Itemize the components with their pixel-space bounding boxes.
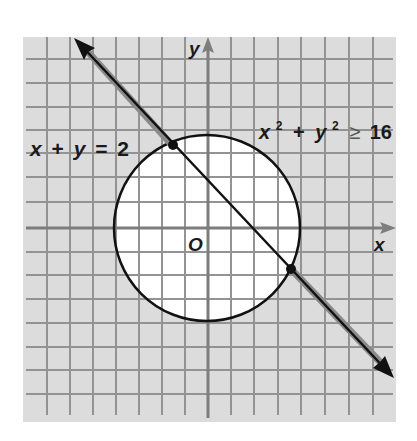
coordinate-graph: y x O x + y = 2 x 2 + y 2 ≥ 16 — [0, 0, 417, 441]
x-axis-label: x — [373, 234, 386, 255]
intersection-point — [286, 264, 296, 274]
intersection-point — [168, 140, 178, 150]
y-axis-label: y — [188, 38, 201, 59]
origin-label: O — [188, 234, 203, 255]
